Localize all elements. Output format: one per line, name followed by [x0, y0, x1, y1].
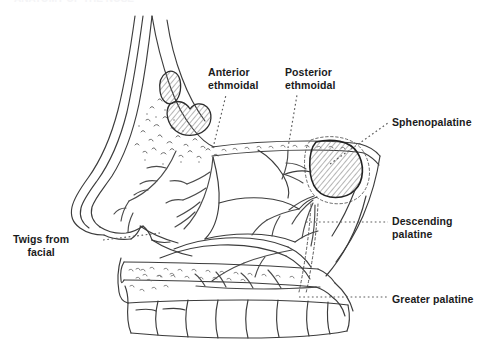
label-greater-palatine: Greater palatine [392, 293, 474, 306]
leader-posterior-ethmoidal [288, 95, 297, 148]
sphenoid-sinus [305, 137, 370, 204]
arterial-network [114, 150, 320, 289]
nasal-profile-outline [71, 16, 152, 235]
upper-lateral-cartilage [160, 71, 181, 104]
inferior-turbinate [160, 238, 311, 279]
nasal-vasculature-figure: ANATOMY OF THE NOSE [0, 0, 491, 347]
label-anterior-ethmoidal: Anterior ethmoidal [208, 66, 259, 91]
middle-turbinate [205, 157, 318, 242]
lower-lateral-cartilage [167, 102, 211, 136]
upper-teeth-row [128, 300, 350, 338]
label-sphenopalatine: Sphenopalatine [392, 116, 472, 129]
label-descending-palatine: Descending palatine [392, 215, 453, 240]
label-twigs-from-facial: Twigs from facial [13, 233, 69, 258]
nasal-tip-columella [100, 226, 170, 242]
nasal-floor-contour [140, 226, 192, 256]
label-posterior-ethmoidal: Posterior ethmoidal [285, 66, 336, 91]
soft-palate [331, 283, 353, 316]
leader-anterior-ethmoidal [213, 95, 226, 148]
